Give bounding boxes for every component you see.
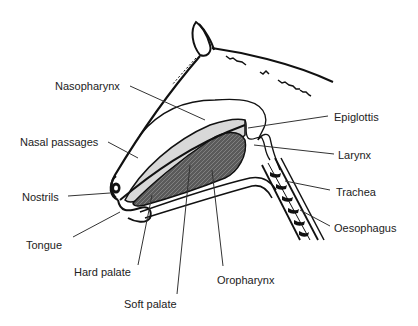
label-nasopharynx: Nasopharynx bbox=[55, 80, 120, 93]
leader-oropharynx bbox=[212, 170, 223, 266]
label-trachea: Trachea bbox=[336, 186, 376, 199]
label-epiglottis: Epiglottis bbox=[334, 111, 379, 124]
label-nostrils: Nostrils bbox=[22, 191, 59, 204]
label-soft-palate: Soft palate bbox=[124, 298, 177, 311]
label-larynx: Larynx bbox=[338, 149, 371, 162]
label-nasal-passages: Nasal passages bbox=[20, 136, 98, 149]
trachea-tube bbox=[262, 158, 318, 240]
horse-head-illustration bbox=[0, 0, 418, 326]
label-oesophagus: Oesophagus bbox=[334, 222, 396, 235]
label-hard-palate: Hard palate bbox=[74, 266, 131, 279]
label-tongue: Tongue bbox=[26, 239, 62, 252]
neck-crest-line bbox=[212, 48, 333, 82]
nostril bbox=[112, 176, 121, 198]
leader-lines bbox=[68, 86, 334, 294]
leader-nasopharynx bbox=[130, 86, 205, 120]
leader-tongue bbox=[73, 212, 120, 237]
mane-hair bbox=[226, 56, 311, 96]
diagram-canvas: Nasopharynx Nasal passages Nostrils Tong… bbox=[0, 0, 418, 326]
leader-epiglottis bbox=[248, 116, 328, 128]
leader-nostrils bbox=[68, 193, 110, 196]
label-oropharynx: Oropharynx bbox=[217, 274, 274, 287]
face-inner-line bbox=[172, 58, 196, 85]
epiglottis-shape bbox=[245, 120, 270, 160]
ear-outline bbox=[193, 22, 214, 56]
